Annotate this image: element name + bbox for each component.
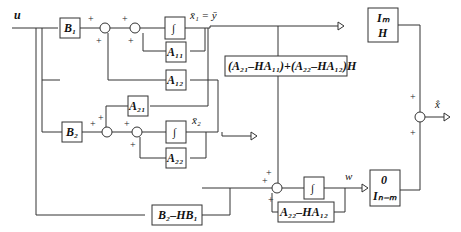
plus-sign: + [90, 118, 96, 129]
plus-sign: + [124, 118, 130, 129]
block-gain-big-label: (A₂₁–HA₁₁)+(A₂₂–HA₁₂)H [228, 59, 357, 73]
arrow-head [362, 184, 368, 192]
plus-sign: + [262, 175, 268, 186]
x2-to-a12 [190, 80, 218, 112]
a12-to-sum1 [108, 33, 166, 80]
b2hb1-route [202, 188, 230, 215]
x1-to-a21 [150, 28, 208, 106]
a22-to-sum4 [140, 137, 166, 158]
block-b2-label: B₂ [65, 125, 78, 139]
signal-x2-label: x̄₂ [191, 114, 201, 126]
plus-sign: + [410, 91, 416, 102]
block-im-h-bottom: H [377, 26, 388, 40]
x2-to-a22 [190, 132, 206, 158]
x1-line [185, 26, 342, 28]
plus-sign: + [268, 194, 274, 205]
signal-w-label: w [345, 170, 353, 182]
x1-to-a11 [190, 28, 205, 51]
summing-junction-2 [130, 23, 140, 33]
x2-out [222, 132, 255, 136]
plus-sign: + [410, 127, 416, 138]
block-zero-i-top: 0 [381, 173, 387, 187]
summing-junction-3 [102, 127, 112, 137]
block-zero-i-bottom: Iₙ₋ₘ [372, 189, 397, 203]
output-label: x̂̇ [434, 98, 440, 110]
plus-sign: + [122, 13, 128, 24]
block-diagram: u B₁ + + + + ∫ x̄₁ = ȳ A₁₁ A₁₂ A₂₁ + B₂ … [0, 0, 461, 232]
w-to-a22ha12 [334, 188, 345, 212]
block-b2-hb1-label: B₂–HB₁ [157, 208, 198, 222]
plus-sign: + [88, 13, 94, 24]
a11-to-sum2 [143, 33, 166, 51]
arrow-head [251, 132, 257, 140]
block-a22-ha12-label: A₂₂–HA₁₂ [279, 205, 328, 219]
block-im-h-top: Iₘ [376, 11, 390, 25]
imh-to-sum6 [398, 25, 420, 112]
block-a21-label: A₂₁ [128, 99, 145, 113]
input-label-u: u [14, 8, 21, 22]
plus-sign: + [96, 35, 102, 46]
block-a11-label: A₁₁ [166, 45, 183, 59]
arrow-head [338, 22, 344, 30]
arrow-head [444, 113, 450, 121]
plus-sign: + [130, 139, 136, 150]
block-a22-label: A₂₂ [166, 151, 183, 165]
u-to-b2 [42, 28, 60, 80]
x2-line [186, 112, 218, 132]
summing-junction-1 [100, 23, 110, 33]
summing-junction-output [415, 112, 425, 122]
plus-sign: + [98, 112, 104, 123]
signal-x1-label: x̄₁ = ȳ [189, 9, 218, 21]
summing-junction-4 [132, 127, 142, 137]
summing-junction-5 [272, 183, 282, 193]
block-a12-label: A₁₂ [166, 73, 183, 87]
plus-sign: + [128, 35, 134, 46]
block-b1-label: B₁ [63, 21, 76, 35]
